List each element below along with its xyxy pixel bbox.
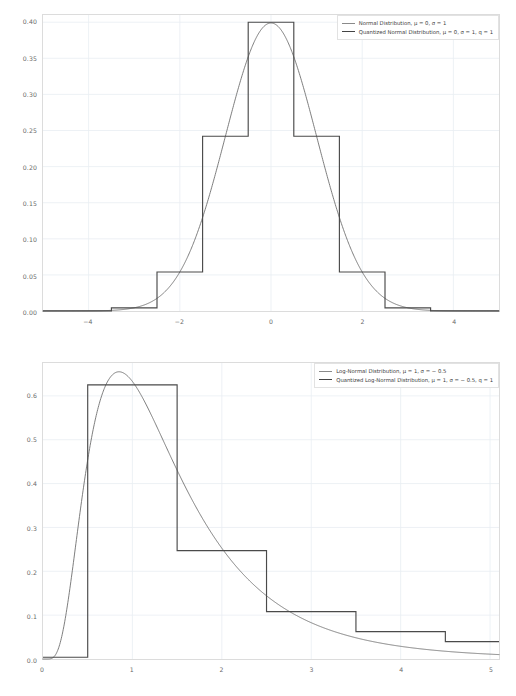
legend-entry-lognormal-quantized: Quantized Log-Normal Distribution, μ = 1… (319, 376, 493, 385)
x-tick-label: −4 (83, 318, 92, 325)
y-tick-label: 0.00 (23, 309, 37, 316)
legend-entry-normal-quantized: Quantized Normal Distribution, μ = 0, σ … (342, 28, 493, 37)
y-tick-label: 0.10 (23, 236, 37, 243)
panel-lognormal-distribution: 0.00.10.20.30.40.50.6 012345 Log-Normal … (0, 348, 516, 696)
x-tick-label: 4 (399, 666, 403, 673)
x-tick-label: −2 (175, 318, 184, 325)
plot-area-normal (42, 14, 500, 312)
y-tick-label: 0.35 (23, 54, 37, 61)
plot-wrap-normal: 0.000.050.100.150.200.250.300.350.40 −4−… (42, 14, 500, 312)
series-curve-lognormal (43, 372, 499, 659)
y-tick-label: 0.6 (27, 392, 37, 399)
plot-canvas-lognormal (43, 363, 499, 659)
x-tick-label: 5 (489, 666, 493, 673)
plot-wrap-lognormal: 0.00.10.20.30.40.50.6 012345 Log-Normal … (42, 362, 500, 660)
x-tick-label: 0 (269, 318, 273, 325)
legend-normal: Normal Distribution, μ = 0, σ = 1 Quanti… (337, 15, 499, 40)
panel-normal-distribution: 0.000.050.100.150.200.250.300.350.40 −4−… (0, 0, 516, 348)
y-tick-label: 0.30 (23, 90, 37, 97)
legend-label-lognormal-curve: Log-Normal Distribution, μ = 1, σ = − 0.… (336, 367, 446, 376)
x-tick-label: 3 (309, 666, 313, 673)
x-tick-label: 1 (130, 666, 134, 673)
y-tick-label: 0.20 (23, 163, 37, 170)
y-tick-label: 0.4 (27, 480, 37, 487)
legend-entry-lognormal-curve: Log-Normal Distribution, μ = 1, σ = − 0.… (319, 367, 493, 376)
legend-swatch-line-icon (342, 23, 355, 24)
series-step-lognormal (43, 385, 499, 657)
legend-label-lognormal-quantized: Quantized Log-Normal Distribution, μ = 1… (336, 376, 493, 385)
y-tick-label: 0.25 (23, 127, 37, 134)
legend-swatch-step-icon (342, 31, 355, 32)
legend-label-normal-quantized: Quantized Normal Distribution, μ = 0, σ … (359, 28, 493, 37)
plot-canvas-normal (43, 15, 499, 311)
y-tick-label: 0.05 (23, 272, 37, 279)
x-tick-label: 2 (361, 318, 365, 325)
x-tick-label: 0 (40, 666, 44, 673)
x-tick-label: 2 (220, 666, 224, 673)
legend-label-normal-curve: Normal Distribution, μ = 0, σ = 1 (359, 19, 447, 28)
figure-two-distribution-plots: 0.000.050.100.150.200.250.300.350.40 −4−… (0, 0, 516, 696)
y-tick-label: 0.3 (27, 524, 37, 531)
legend-entry-normal-curve: Normal Distribution, μ = 0, σ = 1 (342, 19, 493, 28)
legend-lognormal: Log-Normal Distribution, μ = 1, σ = − 0.… (314, 363, 499, 388)
x-tick-label: 4 (452, 318, 456, 325)
plot-area-lognormal (42, 362, 500, 660)
y-tick-label: 0.5 (27, 436, 37, 443)
y-tick-label: 0.1 (27, 612, 37, 619)
legend-swatch-step-icon (319, 379, 332, 380)
y-tick-label: 0.2 (27, 568, 37, 575)
y-tick-label: 0.0 (27, 657, 37, 664)
y-tick-label: 0.15 (23, 199, 37, 206)
y-tick-label: 0.40 (23, 18, 37, 25)
legend-swatch-line-icon (319, 371, 332, 372)
